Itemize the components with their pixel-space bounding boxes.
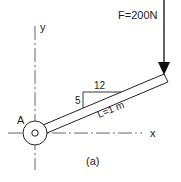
beam: [43, 74, 168, 133]
force-label: F=200N: [118, 9, 157, 21]
force-arrow-icon: [158, 0, 170, 75]
slope-run-label: 12: [94, 80, 106, 91]
point-a-label: A: [17, 114, 25, 126]
slope-rise-label: 5: [75, 95, 81, 106]
length-label: L=1 m: [96, 99, 126, 120]
figure-caption: (a): [86, 155, 99, 167]
y-axis-label: y: [40, 21, 46, 33]
x-axis-label: x: [150, 127, 156, 139]
pin-support: [23, 121, 47, 145]
beam-diagram: F=200N y x A 12 5 L=1 m (a): [0, 0, 181, 182]
